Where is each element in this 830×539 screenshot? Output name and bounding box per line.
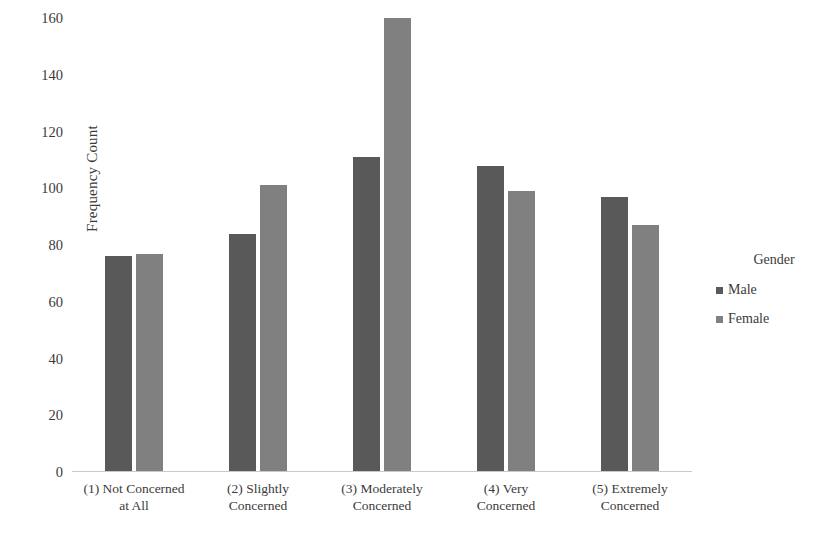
x-axis-label-line: Concerned — [570, 497, 690, 514]
legend-item-label: Male — [728, 282, 757, 298]
x-axis-labels: (1) Not Concernedat All(2) SlightlyConce… — [72, 480, 692, 514]
legend-swatch-icon — [716, 316, 723, 323]
bar-chart: Frequency Count 020406080100120140160 (1… — [0, 0, 830, 539]
bar-group — [196, 18, 320, 472]
y-axis-tick-label: 160 — [41, 10, 63, 27]
bar-male[interactable] — [105, 256, 132, 472]
y-axis-tick-label: 140 — [41, 66, 63, 83]
bar-male[interactable] — [229, 234, 256, 472]
bar-pair — [229, 18, 287, 472]
bar-male[interactable] — [601, 197, 628, 472]
y-axis-tick-label: 80 — [49, 237, 64, 254]
bar-pair — [477, 18, 535, 472]
bar-female[interactable] — [632, 225, 659, 472]
plot-area: 020406080100120140160 — [72, 18, 692, 472]
x-axis-label: (2) SlightlyConcerned — [196, 480, 320, 514]
legend-swatch-icon — [716, 287, 723, 294]
bar-group — [72, 18, 196, 472]
x-axis-line — [72, 471, 692, 472]
y-axis-tick-label: 60 — [49, 293, 64, 310]
legend-item-label: Female — [728, 311, 769, 327]
x-axis-label-line: Concerned — [446, 497, 566, 514]
x-axis-label-line: (4) Very — [446, 480, 566, 497]
legend-title: Gender — [716, 252, 826, 268]
x-axis-label-line: (5) Extremely — [570, 480, 690, 497]
x-axis-label: (1) Not Concernedat All — [72, 480, 196, 514]
bar-group — [320, 18, 444, 472]
bar-pair — [105, 18, 163, 472]
y-axis-tick-label: 100 — [41, 180, 63, 197]
bar-female[interactable] — [508, 191, 535, 472]
y-axis-tick-label: 20 — [49, 407, 64, 424]
bar-female[interactable] — [260, 185, 287, 472]
y-axis-tick-label: 0 — [56, 464, 63, 481]
x-axis-label-line: (3) Moderately — [322, 480, 442, 497]
y-axis-tick-label: 40 — [49, 350, 64, 367]
x-axis-label-line: at All — [74, 497, 194, 514]
x-axis-label: (5) ExtremelyConcerned — [568, 480, 692, 514]
legend-item-female[interactable]: Female — [716, 311, 826, 327]
bar-male[interactable] — [353, 157, 380, 472]
x-axis-label-line: Concerned — [322, 497, 442, 514]
bar-group — [444, 18, 568, 472]
x-axis-label-line: (2) Slightly — [198, 480, 318, 497]
bar-groups — [72, 18, 692, 472]
x-axis-label-line: (1) Not Concerned — [74, 480, 194, 497]
bar-pair — [601, 18, 659, 472]
x-axis-label: (4) VeryConcerned — [444, 480, 568, 514]
legend-item-male[interactable]: Male — [716, 282, 826, 298]
x-axis-label-line: Concerned — [198, 497, 318, 514]
y-axis-tick-label: 120 — [41, 123, 63, 140]
bar-male[interactable] — [477, 166, 504, 472]
legend: Gender MaleFemale — [716, 252, 826, 340]
bar-female[interactable] — [384, 18, 411, 472]
bar-group — [568, 18, 692, 472]
x-axis-label: (3) ModeratelyConcerned — [320, 480, 444, 514]
bar-female[interactable] — [136, 254, 163, 472]
bar-pair — [353, 18, 411, 472]
legend-items: MaleFemale — [716, 282, 826, 327]
